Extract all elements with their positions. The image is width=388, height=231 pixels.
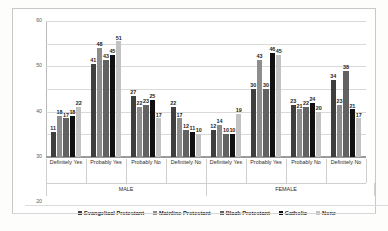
bar: 45 xyxy=(110,55,115,157)
bar: 18 xyxy=(70,116,75,157)
bar-value-label: 10 xyxy=(229,128,235,133)
category-labels: Definitely YesProbably YesProbably NoDef… xyxy=(46,159,366,183)
bar-slot: 17 xyxy=(177,21,182,157)
bar-slot: 19 xyxy=(236,21,241,157)
bar-value-label: 22 xyxy=(303,101,309,106)
bar-value-label: 23 xyxy=(337,99,343,104)
bar-group: 2722232517 xyxy=(126,21,166,157)
bar: 12 xyxy=(211,130,216,157)
bar-slot: 18 xyxy=(57,21,62,157)
category-separator xyxy=(366,159,367,183)
category-label: Probably Yes xyxy=(86,159,126,183)
bar-value-label: 23 xyxy=(143,99,149,104)
bar-group: 2217121110 xyxy=(166,21,206,157)
bar: 20 xyxy=(316,112,321,157)
bar-slot: 45 xyxy=(110,21,115,157)
bar: 51 xyxy=(116,41,121,157)
bar-slot: 23 xyxy=(337,21,342,157)
bar-slot: 24 xyxy=(310,21,315,157)
category-separator xyxy=(326,159,327,183)
bar: 17 xyxy=(356,118,361,157)
bar: 38 xyxy=(343,71,348,157)
bar-slot: 43 xyxy=(103,21,108,157)
category-separator xyxy=(206,159,207,183)
bar: 41 xyxy=(91,64,96,157)
bar-slot: 22 xyxy=(303,21,308,157)
bar-slot: 10 xyxy=(223,21,228,157)
gender-labels: MALEFEMALE xyxy=(46,183,366,196)
bar: 30 xyxy=(263,89,268,157)
bar: 12 xyxy=(183,130,188,157)
bar-slot: 10 xyxy=(230,21,235,157)
bar: 17 xyxy=(63,118,68,157)
plot-area: 0102030405060 11181718224148434551272223… xyxy=(46,21,366,157)
bar-value-label: 46 xyxy=(269,47,275,52)
y-axis-tick-label: 30 xyxy=(36,154,42,159)
bar-value-label: 51 xyxy=(116,36,122,41)
bar-slot: 30 xyxy=(263,21,268,157)
bar-slot: 41 xyxy=(91,21,96,157)
chart-screenshot: 0102030405060 11181718224148434551272223… xyxy=(0,0,388,231)
bar-value-label: 18 xyxy=(57,110,63,115)
bar: 24 xyxy=(310,103,315,157)
bar: 22 xyxy=(171,107,176,157)
bar: 11 xyxy=(51,132,56,157)
bar-group: 1118171822 xyxy=(46,21,86,157)
bar-value-label: 14 xyxy=(217,119,223,124)
bar: 19 xyxy=(236,114,241,157)
bar-slot: 17 xyxy=(156,21,161,157)
bar-groups: 1118171822414843455127222325172217121110… xyxy=(46,21,366,157)
bar-group: 4148434551 xyxy=(86,21,126,157)
bar-value-label: 10 xyxy=(196,128,202,133)
bar: 22 xyxy=(303,107,308,157)
bar-slot: 45 xyxy=(276,21,281,157)
bar-group: 3043304645 xyxy=(246,21,286,157)
bar-slot: 34 xyxy=(331,21,336,157)
bar: 27 xyxy=(131,96,136,157)
bar-value-label: 30 xyxy=(250,83,256,88)
bar: 25 xyxy=(150,100,155,157)
bar-slot: 17 xyxy=(356,21,361,157)
bar-slot: 12 xyxy=(183,21,188,157)
bar-value-label: 41 xyxy=(90,58,96,63)
bar-value-label: 17 xyxy=(356,113,362,118)
bar-value-label: 22 xyxy=(170,101,176,106)
bar-slot: 22 xyxy=(137,21,142,157)
bar-slot: 30 xyxy=(251,21,256,157)
bar-value-label: 19 xyxy=(236,108,242,113)
bar-slot: 48 xyxy=(97,21,102,157)
bar-slot: 14 xyxy=(217,21,222,157)
gender-band-right-edge xyxy=(374,183,375,196)
bar: 10 xyxy=(223,134,228,157)
y-axis-tick-label: 40 xyxy=(36,109,42,114)
bar-slot: 43 xyxy=(257,21,262,157)
gender-group-label: MALE xyxy=(46,183,206,196)
bar-value-label: 11 xyxy=(50,126,56,131)
y-axis-tick-label: 60 xyxy=(36,18,42,23)
bar: 14 xyxy=(217,125,222,157)
bar-value-label: 23 xyxy=(290,99,296,104)
category-label: Probably No xyxy=(126,159,166,183)
bar-value-label: 21 xyxy=(297,104,303,109)
bar: 18 xyxy=(57,116,62,157)
bar: 10 xyxy=(196,134,201,157)
category-separator xyxy=(166,159,167,183)
bar-value-label: 21 xyxy=(349,104,355,109)
bar-slot: 51 xyxy=(116,21,121,157)
bar-slot: 25 xyxy=(150,21,155,157)
bar-value-label: 43 xyxy=(257,54,263,59)
category-separator xyxy=(246,159,247,183)
bar-value-label: 45 xyxy=(109,49,115,54)
bar: 48 xyxy=(97,48,102,157)
category-separator xyxy=(286,159,287,183)
category-label: Definitely Yes xyxy=(46,159,86,183)
bar-value-label: 30 xyxy=(263,83,269,88)
bar-value-label: 24 xyxy=(309,97,315,102)
category-separator xyxy=(86,159,87,183)
bar: 43 xyxy=(257,60,262,157)
bar-slot: 22 xyxy=(76,21,81,157)
bar: 22 xyxy=(137,107,142,157)
bar-group: 2321222420 xyxy=(286,21,326,157)
bar-slot: 21 xyxy=(350,21,355,157)
bar: 17 xyxy=(177,118,182,157)
